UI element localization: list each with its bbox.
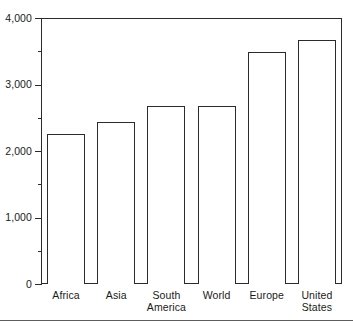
x-axis-tick-label-line: Asia [88,289,144,301]
y-axis-tick-label: 3,000 [5,79,32,90]
x-axis-tick-label-line: World [189,289,245,301]
y-axis-minor-tick [38,184,42,185]
y-axis-tick-label: 1,000 [5,212,32,223]
x-axis-tick-label-line: States [289,301,345,313]
y-axis-minor-tick [38,51,42,52]
bar [248,52,286,284]
y-axis-tick-label: 4,000 [5,13,32,24]
plot-area-frame [41,18,342,284]
y-axis-major-tick [35,284,42,285]
y-axis-minor-tick [38,251,42,252]
x-axis-tick-label-line: Europe [239,289,295,301]
bar-chart-figure: 4,0003,0002,0001,0000 AfricaAsiaSouthAme… [0,0,353,327]
x-axis-tick-label-line: South [138,289,194,301]
x-axis-tick-label-line: Africa [38,289,94,301]
y-axis-tick-label: 0 [26,279,32,290]
y-axis-major-tick [35,151,42,152]
x-axis-tick-label: Asia [88,289,144,301]
y-axis-major-tick [35,85,42,86]
bottom-divider [0,320,353,321]
bar [47,134,85,284]
y-axis-tick-label: 2,000 [5,146,32,157]
bar [198,106,236,284]
x-axis-tick-label: SouthAmerica [138,289,194,313]
y-axis-major-tick [35,218,42,219]
y-axis-major-tick [35,18,42,19]
x-axis-tick-label-line: America [138,301,194,313]
x-axis-tick-label: World [189,289,245,301]
x-axis-tick-label: Europe [239,289,295,301]
x-axis-tick-label: Africa [38,289,94,301]
bar [97,122,135,284]
x-axis-tick-label-line: United [289,289,345,301]
bar [147,106,185,284]
x-axis-tick-label: UnitedStates [289,289,345,313]
y-axis-minor-tick [38,118,42,119]
bar [298,40,336,284]
